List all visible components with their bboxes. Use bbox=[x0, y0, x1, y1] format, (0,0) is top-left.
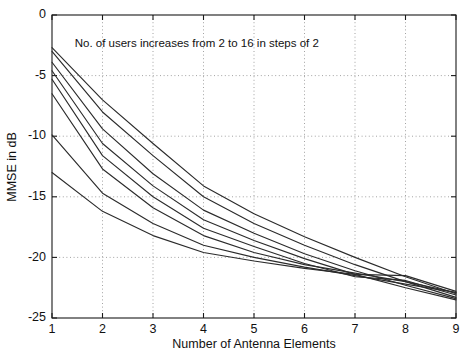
x-tick-label: 6 bbox=[301, 322, 308, 336]
y-tick-label: -15 bbox=[28, 189, 46, 203]
x-axis-title: Number of Antenna Elements bbox=[172, 337, 335, 351]
plot-annotation: No. of users increases from 2 to 16 in s… bbox=[75, 37, 319, 49]
x-tick-label: 8 bbox=[402, 322, 409, 336]
y-tick-label: 0 bbox=[39, 7, 46, 21]
x-tick-label: 3 bbox=[150, 322, 157, 336]
y-tick-label: -20 bbox=[28, 250, 46, 264]
x-tick-label: 1 bbox=[49, 322, 56, 336]
y-tick-labels-group: 0-5-10-15-20-25 bbox=[28, 7, 46, 324]
x-tick-label: 2 bbox=[99, 322, 106, 336]
x-tick-label: 5 bbox=[251, 322, 258, 336]
series-line bbox=[52, 79, 456, 295]
y-tick-label: -5 bbox=[35, 68, 46, 82]
x-tick-labels-group: 123456789 bbox=[49, 322, 460, 336]
y-axis-title: MMSE in dB bbox=[5, 132, 19, 201]
y-tick-label: -10 bbox=[28, 128, 46, 142]
y-tick-label: -25 bbox=[28, 310, 46, 324]
chart-canvas: 123456789 0-5-10-15-20-25 Number of Ante… bbox=[0, 0, 476, 360]
figure-container: 123456789 0-5-10-15-20-25 Number of Ante… bbox=[0, 0, 476, 360]
series-line bbox=[52, 62, 456, 298]
x-tick-label: 9 bbox=[453, 322, 460, 336]
x-tick-label: 4 bbox=[200, 322, 207, 336]
x-tick-label: 7 bbox=[352, 322, 359, 336]
